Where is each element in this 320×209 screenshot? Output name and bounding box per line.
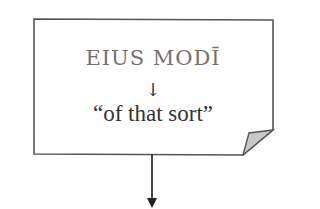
headword: EIUS MODĪ — [33, 46, 273, 70]
connector-arrow-icon — [144, 154, 160, 209]
down-arrow-icon: ↓ — [33, 79, 273, 100]
translation: “of that sort” — [33, 101, 273, 127]
note-box: EIUS MODĪ ↓ “of that sort” — [33, 18, 273, 154]
